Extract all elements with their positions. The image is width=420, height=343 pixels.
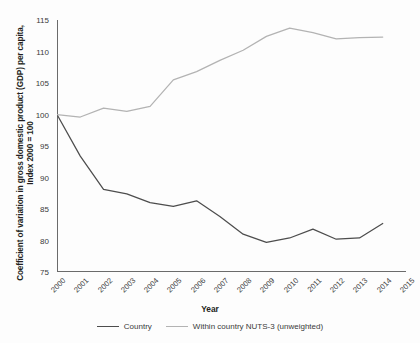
x-tick-label: 2005	[165, 276, 183, 294]
chart-svg	[57, 20, 406, 272]
x-tick-label: 2010	[282, 276, 300, 294]
legend-item[interactable]: Within country NUTS-3 (unweighted)	[166, 322, 323, 331]
x-tick-label: 2009	[258, 276, 276, 294]
series-line	[57, 115, 383, 243]
y-tick-label: 95	[29, 142, 49, 151]
axis-lines	[58, 20, 407, 272]
y-tick-label: 100	[29, 110, 49, 119]
x-tick-label: 2012	[328, 276, 346, 294]
x-tick-label: 2013	[351, 276, 369, 294]
chart-legend: CountryWithin country NUTS-3 (unweighted…	[0, 322, 420, 331]
y-tick-label: 90	[29, 173, 49, 182]
y-axis-tick-labels: 7580859095100105110115	[27, 20, 49, 272]
series-line	[57, 28, 383, 117]
y-tick-label: 110	[29, 47, 49, 56]
x-axis-title: Year	[0, 304, 420, 314]
legend-line-swatch	[166, 326, 188, 327]
legend-label: Country	[124, 322, 152, 331]
x-tick-label: 2001	[72, 276, 90, 294]
y-tick-label: 80	[29, 236, 49, 245]
y-tick-label: 85	[29, 205, 49, 214]
chart-figure: Coefficient of variation in gross domest…	[0, 0, 420, 343]
y-tick-label: 75	[29, 268, 49, 277]
x-tick-label: 2002	[96, 276, 114, 294]
x-tick-label: 2015	[398, 276, 416, 294]
plot-area	[57, 20, 406, 272]
legend-label: Within country NUTS-3 (unweighted)	[193, 322, 323, 331]
x-tick-label: 2003	[119, 276, 137, 294]
x-tick-label: 2004	[142, 276, 160, 294]
x-tick-label: 2011	[305, 276, 323, 294]
x-tick-label: 2006	[189, 276, 207, 294]
legend-line-swatch	[97, 326, 119, 327]
data-series-lines	[57, 28, 383, 242]
y-tick-label: 105	[29, 79, 49, 88]
x-tick-label: 2007	[212, 276, 230, 294]
x-tick-label: 2014	[375, 276, 393, 294]
x-tick-label: 2000	[49, 276, 67, 294]
legend-item[interactable]: Country	[97, 322, 152, 331]
x-tick-label: 2008	[235, 276, 253, 294]
y-tick-label: 115	[29, 16, 49, 25]
